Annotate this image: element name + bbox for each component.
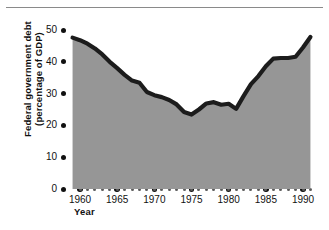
chart-plot-area: [0, 0, 329, 230]
x-axis-title: Year: [74, 206, 95, 217]
chart-figure: Federal government debt (percentage of G…: [0, 0, 329, 230]
